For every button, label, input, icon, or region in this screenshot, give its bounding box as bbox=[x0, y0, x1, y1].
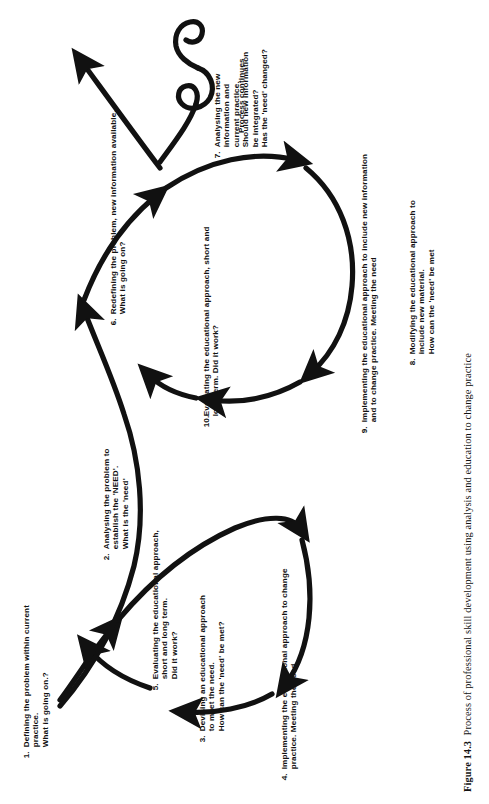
step-10-text: Evaluating the educational approach, sho… bbox=[202, 226, 221, 416]
step-9-text: Implementing the educational approach to… bbox=[360, 154, 379, 423]
step-4-number: 4. bbox=[280, 769, 290, 780]
step-5-text: Evaluating the educational approach, sho… bbox=[151, 530, 180, 679]
figure-caption-text: Process of professional skill developmen… bbox=[462, 353, 473, 735]
step-6: 6.Redefining the problem, new informatio… bbox=[99, 110, 137, 335]
step-10-number: 10. bbox=[202, 416, 212, 427]
step-8: 8.Modifying the educational approach to … bbox=[398, 200, 446, 375]
step-10: 10.Evaluating the educational approach, … bbox=[192, 226, 230, 437]
step-7-number: 7. bbox=[213, 147, 223, 158]
step-1-text: Defining the problem within current prac… bbox=[22, 605, 51, 747]
step-3-text: Devising an educational approach to meet… bbox=[198, 595, 227, 732]
step-5-number: 5. bbox=[151, 679, 161, 690]
step-8-number: 8. bbox=[408, 354, 418, 365]
step-9: 9.Implementing the educational approach … bbox=[350, 154, 388, 443]
figure-caption-label: Figure 14.3 bbox=[462, 741, 473, 792]
step-8-text: Modifying the educational approach to in… bbox=[408, 200, 437, 354]
step-6-number: 6. bbox=[109, 314, 119, 325]
step-6-text: Redefining the problem, new information … bbox=[109, 110, 128, 314]
step-3-number: 3. bbox=[198, 731, 208, 742]
step-4: 4.Implementing the educational approach … bbox=[270, 568, 308, 790]
step-9-number: 9. bbox=[360, 422, 370, 433]
step-1: 1.Defining the problem within current pr… bbox=[12, 605, 60, 768]
step-1-number: 1. bbox=[22, 747, 32, 758]
step-2: 2.Analysing the problem to establish the… bbox=[92, 448, 140, 570]
figure-caption: Figure 14.3 Process of professional skil… bbox=[462, 353, 474, 792]
process-continues-label: Process continues bbox=[237, 58, 247, 133]
step-2-number: 2. bbox=[102, 549, 112, 560]
figure-caption-spacer bbox=[462, 735, 473, 740]
step-2-text: Analysing the problem to establish the '… bbox=[102, 448, 131, 549]
step-4-text: Implementing the educational approach to… bbox=[280, 568, 299, 769]
figure-container: 1.Defining the problem within current pr… bbox=[0, 0, 489, 804]
step-5: 5.Evaluating the educational approach, s… bbox=[141, 530, 189, 700]
step-3: 3.Devising an educational approach to me… bbox=[188, 595, 236, 752]
